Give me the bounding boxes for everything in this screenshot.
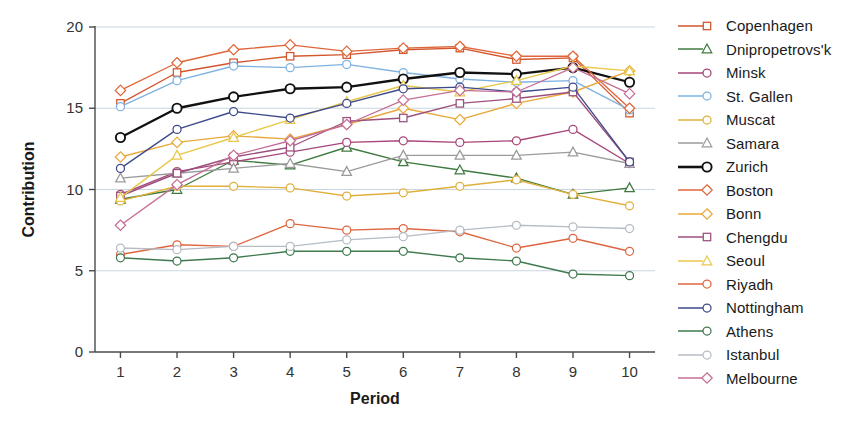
legend-marker-icon xyxy=(676,227,722,247)
x-tick-label: 2 xyxy=(173,363,181,380)
legend-item[interactable]: Chengdu xyxy=(676,226,855,250)
data-point xyxy=(703,116,711,124)
data-point xyxy=(172,137,182,147)
data-point xyxy=(115,220,125,230)
legend-item[interactable]: Zurich xyxy=(676,155,855,179)
legend-item[interactable]: Melbourne xyxy=(676,367,855,391)
data-point xyxy=(456,100,463,107)
legend-item[interactable]: Minsk xyxy=(676,61,855,85)
data-point xyxy=(569,83,577,91)
x-tick-label: 8 xyxy=(512,363,520,380)
data-point xyxy=(624,88,634,98)
series-line xyxy=(120,66,629,198)
legend-label: Boston xyxy=(722,182,773,199)
data-point xyxy=(626,272,634,280)
series-line xyxy=(120,68,629,226)
data-point xyxy=(569,125,577,133)
legend-marker-icon xyxy=(676,16,722,36)
legend-label: Muscat xyxy=(722,111,775,128)
data-point xyxy=(702,209,712,219)
data-point xyxy=(626,247,634,255)
legend-item[interactable]: Dnipropetrovs'k xyxy=(676,38,855,62)
legend-marker-icon xyxy=(676,345,722,365)
y-tick-label: 0 xyxy=(75,343,83,360)
legend-marker-icon xyxy=(676,39,722,59)
data-point xyxy=(703,234,710,241)
data-point xyxy=(703,280,711,288)
data-point xyxy=(399,225,407,233)
legend-item[interactable]: Muscat xyxy=(676,108,855,132)
legend-marker-icon xyxy=(676,298,722,318)
series-melbourne xyxy=(115,62,634,230)
x-tick-label: 9 xyxy=(569,363,577,380)
legend-label: Zurich xyxy=(722,158,768,175)
y-axis-title: Contribution xyxy=(20,142,37,238)
data-point xyxy=(173,77,181,85)
legend-marker-icon xyxy=(676,251,722,271)
x-tick-label: 4 xyxy=(286,363,294,380)
x-tick-label: 3 xyxy=(229,363,237,380)
x-tick-label: 1 xyxy=(116,363,124,380)
data-point xyxy=(343,192,351,200)
data-point xyxy=(116,103,124,111)
data-point xyxy=(286,64,294,72)
data-point xyxy=(626,158,634,166)
data-point xyxy=(173,170,180,177)
legend-marker-icon xyxy=(676,180,722,200)
data-point xyxy=(343,138,351,146)
legend-label: Istanbul xyxy=(722,346,779,363)
legend-label: Riyadh xyxy=(722,276,773,293)
legend-item[interactable]: Samara xyxy=(676,132,855,156)
data-point xyxy=(399,189,407,197)
legend-item[interactable]: Copenhagen xyxy=(676,14,855,38)
legend-label: St. Gallen xyxy=(722,88,793,105)
data-point xyxy=(116,133,125,142)
data-point xyxy=(512,137,520,145)
legend-item[interactable]: Nottingham xyxy=(676,296,855,320)
legend-label: Bonn xyxy=(722,205,761,222)
data-point xyxy=(173,125,181,133)
series-line xyxy=(120,68,629,138)
data-point xyxy=(702,185,712,195)
series-line xyxy=(120,129,629,194)
legend-label: Melbourne xyxy=(722,370,798,387)
legend-item[interactable]: Athens xyxy=(676,320,855,344)
data-point xyxy=(702,256,712,265)
legend-item[interactable]: Riyadh xyxy=(676,273,855,297)
data-point xyxy=(512,176,520,184)
legend-item[interactable]: St. Gallen xyxy=(676,85,855,109)
y-tick-label: 15 xyxy=(66,99,83,116)
data-point xyxy=(456,226,464,234)
series-line xyxy=(120,87,629,168)
x-axis-title: Period xyxy=(350,390,400,407)
data-point xyxy=(703,304,711,312)
x-tick-label: 10 xyxy=(621,363,638,380)
data-point xyxy=(456,138,464,146)
data-point xyxy=(343,99,351,107)
data-point xyxy=(342,83,351,92)
legend-label: Samara xyxy=(722,135,779,152)
legend-item[interactable]: Istanbul xyxy=(676,343,855,367)
data-point xyxy=(569,234,577,242)
data-point xyxy=(285,159,295,168)
data-point xyxy=(703,327,711,335)
series-line xyxy=(120,251,629,275)
legend-item[interactable]: Bonn xyxy=(676,202,855,226)
legend-item[interactable]: Seoul xyxy=(676,249,855,273)
series-line xyxy=(120,224,629,255)
data-point xyxy=(116,244,124,252)
data-point xyxy=(702,138,712,147)
legend-label: Copenhagen xyxy=(722,17,813,34)
legend-item[interactable]: Boston xyxy=(676,179,855,203)
line-chart-plot: 0510152012345678910PeriodContribution xyxy=(0,0,680,429)
data-point xyxy=(230,182,238,190)
data-point xyxy=(116,164,124,172)
data-point xyxy=(398,95,408,105)
data-point xyxy=(569,190,577,198)
data-point xyxy=(230,108,238,116)
series-istanbul xyxy=(116,221,633,253)
data-point xyxy=(703,351,711,359)
data-point xyxy=(400,114,407,121)
data-point xyxy=(399,233,407,241)
y-tick-label: 5 xyxy=(75,262,83,279)
